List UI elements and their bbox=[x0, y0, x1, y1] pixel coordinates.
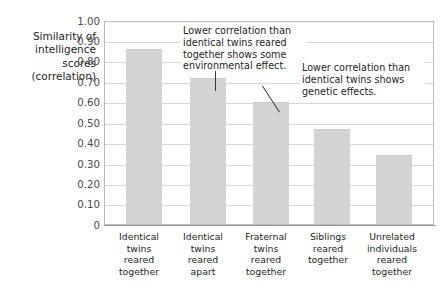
annotation-environmental-effect: Lower correlation than identical twins r… bbox=[181, 24, 306, 73]
x-label-unrelated-individuals-reared-together: Unrelated individuals reared together bbox=[352, 231, 432, 277]
y-tick-0: 0 bbox=[60, 221, 100, 231]
bar-identical-twins-reared-together bbox=[126, 49, 162, 224]
bar-unrelated-individuals-reared-together bbox=[376, 155, 412, 224]
y-tick-0-90: 0.90 bbox=[60, 37, 100, 47]
x-label-3-line-4: together bbox=[228, 266, 304, 278]
x-label-5-line-2: individuals bbox=[352, 243, 432, 255]
y-tick-1-00: 1.00 bbox=[60, 17, 100, 27]
y-tick-0-10: 0.10 bbox=[60, 200, 100, 210]
x-axis-line bbox=[104, 225, 436, 226]
annotation-genetic-effects: Lower correlation than identical twins s… bbox=[300, 61, 425, 98]
y-tick-0-40: 0.40 bbox=[60, 139, 100, 149]
y-tick-0-60: 0.60 bbox=[60, 98, 100, 108]
y-tick-0-70: 0.70 bbox=[60, 78, 100, 88]
y-tick-0-30: 0.30 bbox=[60, 160, 100, 170]
y-axis-tick-labels: 1.00 0.90 0.80 0.70 0.60 0.50 0.40 0.30 … bbox=[60, 0, 100, 290]
x-label-5-line-4: together bbox=[352, 266, 432, 278]
bar-siblings-reared-together bbox=[314, 129, 350, 224]
y-tick-0-50: 0.50 bbox=[60, 119, 100, 129]
y-tick-0-80: 0.80 bbox=[60, 57, 100, 67]
x-label-5-line-1: Unrelated bbox=[352, 231, 432, 243]
y-tick-0-20: 0.20 bbox=[60, 180, 100, 190]
annotation-1-leader-line bbox=[215, 71, 216, 91]
bar-fraternal-twins-reared-together bbox=[253, 102, 289, 224]
bar-chart: Similarity of intelligence scores (corre… bbox=[0, 0, 441, 290]
x-label-5-line-3: reared bbox=[352, 254, 432, 266]
bar-identical-twins-reared-apart bbox=[190, 78, 226, 224]
